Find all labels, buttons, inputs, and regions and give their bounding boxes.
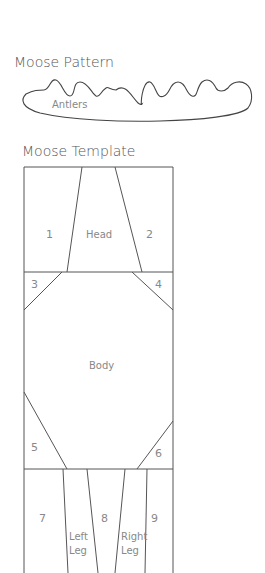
body-label: Body [89,360,114,371]
piece-1-label: 1 [46,228,53,241]
piece-9-label: 9 [151,512,158,525]
left-leg-label-line1: Left [69,531,88,542]
piece-2-label: 2 [146,228,153,241]
moose-pattern-diagram: Moose Pattern Antlers Moose Template 1 H… [0,0,265,573]
piece-6-label: 6 [155,447,162,460]
piece-4-label: 4 [155,278,162,291]
template-title: Moose Template [22,143,135,159]
left-leg-label-line2: Leg [69,545,87,556]
piece-3-label: 3 [31,278,38,291]
head-label: Head [86,229,112,240]
head-piece [67,167,142,272]
piece-8-label: 8 [101,512,108,525]
piece-7-label: 7 [39,512,46,525]
right-leg-label-line1: Right [121,531,147,542]
antlers-label: Antlers [52,99,87,110]
right-leg-label-line2: Leg [121,545,139,556]
piece-5-label: 5 [31,441,38,454]
pattern-title: Moose Pattern [14,54,114,70]
